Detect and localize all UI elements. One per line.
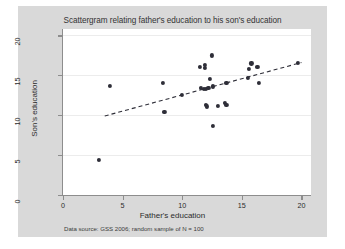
- y-tick-10: [58, 115, 62, 116]
- x-tick-label-20: 20: [293, 201, 309, 210]
- source-note: Data source: GSS 2006; random sample of …: [64, 225, 204, 232]
- y-tick-label-15: 15: [13, 75, 22, 89]
- trend-line: [63, 29, 311, 195]
- y-tick-label-0: 0: [13, 195, 22, 209]
- x-tick-label-5: 5: [115, 201, 131, 210]
- x-tick-10: [182, 196, 183, 200]
- x-tick-0: [63, 196, 64, 200]
- chart-title: Scattergram relating father's education …: [18, 16, 327, 25]
- x-axis-title: Father's education: [18, 211, 327, 220]
- chart-figure: Scattergram relating father's education …: [18, 6, 327, 237]
- y-tick-0: [58, 195, 62, 196]
- y-tick-20: [58, 35, 62, 36]
- y-tick-label-10: 10: [13, 115, 22, 129]
- y-tick-15: [58, 75, 62, 76]
- x-tick-label-15: 15: [234, 201, 250, 210]
- x-tick-20: [301, 196, 302, 200]
- x-tick-label-0: 0: [55, 201, 71, 210]
- y-tick-label-5: 5: [13, 155, 22, 169]
- x-tick-label-10: 10: [174, 201, 190, 210]
- x-tick-5: [123, 196, 124, 200]
- y-axis-title: Son's education: [30, 69, 39, 149]
- y-tick-label-20: 20: [13, 35, 22, 49]
- x-axis-line: [62, 195, 311, 196]
- x-tick-15: [242, 196, 243, 200]
- y-tick-5: [58, 155, 62, 156]
